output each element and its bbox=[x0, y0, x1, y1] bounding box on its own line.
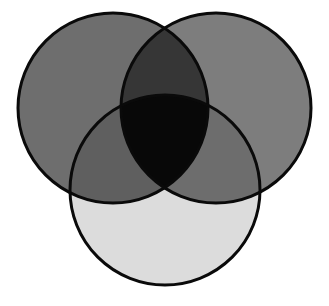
venn-diagram-canvas bbox=[0, 0, 329, 306]
venn-diagram bbox=[0, 0, 329, 306]
